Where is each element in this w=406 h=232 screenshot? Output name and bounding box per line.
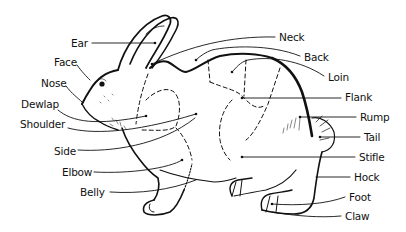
label-belly: Belly xyxy=(80,187,105,198)
rabbit-anatomy-diagram xyxy=(0,0,406,232)
label-neck: Neck xyxy=(279,32,304,43)
label-rump: Rump xyxy=(360,112,390,123)
label-ear: Ear xyxy=(71,38,88,49)
label-side: Side xyxy=(54,146,76,157)
label-tail: Tail xyxy=(364,132,380,143)
label-flank: Flank xyxy=(345,92,372,103)
label-shoulder: Shoulder xyxy=(20,119,65,130)
label-foot: Foot xyxy=(349,192,371,203)
label-claw: Claw xyxy=(345,211,369,222)
label-stifle: Stifle xyxy=(359,152,385,163)
label-back: Back xyxy=(304,52,329,63)
label-loin: Loin xyxy=(328,72,349,83)
label-hock: Hock xyxy=(354,172,379,183)
label-elbow: Elbow xyxy=(62,167,92,178)
label-nose: Nose xyxy=(41,78,66,89)
label-face: Face xyxy=(54,57,77,68)
label-dewlap: Dewlap xyxy=(21,99,59,110)
